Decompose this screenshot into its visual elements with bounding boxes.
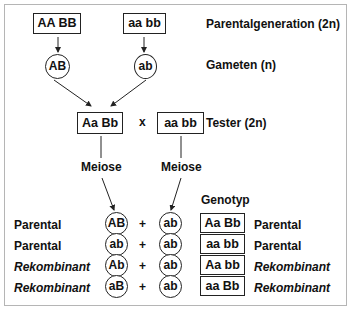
tester-label: Tester (2n) (206, 116, 266, 130)
offspring-type-left: Parental (14, 239, 61, 253)
offspring-f1-gamete: Ab (105, 254, 128, 277)
plus-sign: + (139, 238, 146, 252)
parent-left-genotype-box: AA BB (33, 13, 81, 34)
plus-sign: + (139, 259, 146, 273)
f1-genotype-box: Aa Bb (77, 112, 123, 134)
offspring-f1-gamete: aB (105, 275, 128, 298)
offspring-type-right: Rekombinant (254, 260, 330, 274)
offspring-type-left: Rekombinant (14, 260, 90, 274)
offspring-f1-gamete: ab (105, 233, 128, 256)
tester-genotype-box: aa bb (157, 112, 204, 134)
offspring-genotype-box: aa bb (200, 234, 245, 254)
gametes-label: Gameten (n) (206, 58, 276, 72)
meiosis-left-label: Meiose (81, 160, 122, 174)
genotype-header: Genotyp (201, 193, 250, 207)
gamete-left-circle: AB (45, 54, 70, 79)
plus-sign: + (139, 280, 146, 294)
parent-right-genotype-box: aa bb (123, 13, 166, 34)
offspring-type-right: Parental (254, 239, 301, 253)
offspring-genotype-box: Aa bb (200, 255, 245, 275)
offspring-genotype-box: Aa Bb (200, 213, 245, 233)
offspring-type-right: Rekombinant (254, 281, 330, 295)
offspring-type-right: Parental (254, 218, 301, 232)
offspring-type-left: Rekombinant (14, 281, 90, 295)
offspring-tester-gamete: ab (159, 212, 182, 235)
gamete-right-circle: ab (134, 54, 157, 79)
plus-sign: + (139, 217, 146, 231)
offspring-tester-gamete: ab (159, 254, 182, 277)
offspring-f1-gamete: AB (105, 212, 128, 235)
meiosis-right-label: Meiose (161, 160, 202, 174)
cross-operator: x (139, 115, 146, 129)
offspring-genotype-box: aa Bb (200, 276, 245, 296)
offspring-tester-gamete: ab (159, 275, 182, 298)
offspring-type-left: Parental (14, 218, 61, 232)
parental-generation-label: Parentalgeneration (2n) (206, 17, 340, 31)
offspring-tester-gamete: ab (159, 233, 182, 256)
